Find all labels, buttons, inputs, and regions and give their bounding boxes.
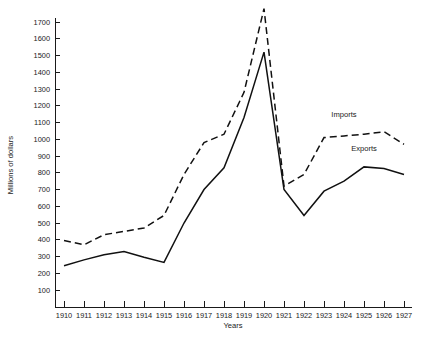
y-tick-label: 500 (38, 219, 50, 228)
y-axis-ticks: 1002003004005006007008009001000110012001… (34, 18, 60, 295)
y-tick-label: 1200 (34, 101, 50, 110)
y-tick-label: 1300 (34, 85, 50, 94)
x-tick-label: 1925 (356, 311, 372, 320)
series-annotation-exports: Exports (351, 144, 377, 153)
x-tick-label: 1910 (56, 311, 72, 320)
x-tick-label: 1924 (336, 311, 352, 320)
series-line-imports (64, 9, 404, 245)
x-tick-label: 1916 (176, 311, 192, 320)
x-tick-label: 1915 (156, 311, 172, 320)
chart-page: 1002003004005006007008009001000110012001… (0, 0, 425, 344)
x-tick-label: 1911 (76, 311, 92, 320)
x-axis-ticks: 1910191119121913191419151916191719181919… (56, 301, 412, 320)
x-tick-label: 1926 (376, 311, 392, 320)
y-tick-label: 1500 (34, 51, 50, 60)
x-tick-label: 1919 (236, 311, 252, 320)
y-tick-label: 1700 (34, 18, 50, 27)
series-annotations: ImportsExports (331, 110, 377, 153)
x-tick-label: 1914 (136, 311, 152, 320)
y-tick-label: 200 (38, 269, 50, 278)
x-tick-label: 1927 (396, 311, 412, 320)
y-tick-label: 1400 (34, 68, 50, 77)
y-axis-title: Millions of dollars (6, 136, 15, 194)
x-tick-label: 1917 (196, 311, 212, 320)
y-tick-label: 600 (38, 202, 50, 211)
x-tick-label: 1918 (216, 311, 232, 320)
series-annotation-imports: Imports (331, 110, 357, 119)
y-tick-label: 900 (38, 152, 50, 161)
y-tick-label: 100 (38, 286, 50, 295)
y-axis-group: 1002003004005006007008009001000110012001… (6, 18, 60, 307)
x-tick-label: 1912 (96, 311, 112, 320)
series-group (64, 9, 404, 266)
y-tick-label: 800 (38, 168, 50, 177)
y-tick-label: 700 (38, 185, 50, 194)
x-tick-label: 1920 (256, 311, 272, 320)
x-tick-label: 1923 (316, 311, 332, 320)
y-tick-label: 400 (38, 235, 50, 244)
x-axis-title: Years (223, 321, 242, 330)
x-tick-label: 1921 (276, 311, 292, 320)
y-tick-label: 1600 (34, 34, 50, 43)
x-axis-group: 1910191119121913191419151916191719181919… (55, 301, 412, 330)
y-tick-label: 1000 (34, 135, 50, 144)
x-tick-label: 1913 (116, 311, 132, 320)
series-line-exports (64, 52, 404, 266)
x-tick-label: 1922 (296, 311, 312, 320)
line-chart: 1002003004005006007008009001000110012001… (0, 0, 425, 344)
y-tick-label: 300 (38, 252, 50, 261)
y-tick-label: 1100 (34, 118, 50, 127)
